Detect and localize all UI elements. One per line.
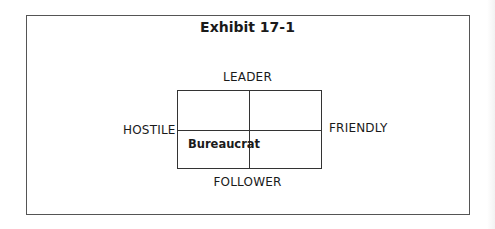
quadrant-grid: Bureaucrat xyxy=(177,90,322,169)
axis-label-friendly: FRIENDLY xyxy=(329,121,388,135)
axis-label-follower: FOLLOWER xyxy=(0,175,495,189)
axis-label-leader: LEADER xyxy=(0,70,495,84)
quadrant-bureaucrat: Bureaucrat xyxy=(188,137,260,151)
horizontal-divider xyxy=(178,130,321,131)
exhibit-title: Exhibit 17-1 xyxy=(0,19,495,35)
page-edge-shadow xyxy=(487,0,495,229)
axis-label-hostile: HOSTILE xyxy=(123,123,176,137)
